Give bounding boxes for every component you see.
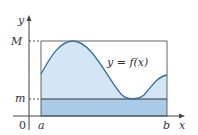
y-axis-arrow-icon bbox=[27, 15, 32, 21]
curve-label: y = f(x) bbox=[106, 56, 148, 69]
function-bounds-diagram: y x 0 M m a b y = f(x) bbox=[0, 0, 198, 135]
b-label: b bbox=[163, 119, 170, 132]
origin-label: 0 bbox=[19, 119, 26, 132]
max-label: M bbox=[10, 35, 23, 48]
x-axis-arrow-icon bbox=[179, 114, 185, 119]
min-rectangle bbox=[41, 99, 167, 116]
x-axis-label: x bbox=[179, 119, 186, 132]
min-label: m bbox=[15, 92, 25, 105]
y-axis-label: y bbox=[17, 14, 25, 27]
a-label: a bbox=[38, 119, 45, 132]
